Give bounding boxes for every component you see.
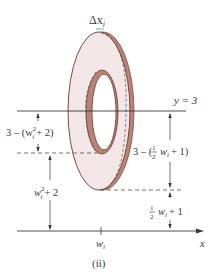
right-top-var: wi+ 1) bbox=[160, 146, 189, 159]
x-axis-arrow-icon bbox=[196, 229, 204, 234]
arrow-up-icon bbox=[168, 113, 171, 118]
left-top-dimension-label: 3 – (w2i+ 2) bbox=[6, 125, 54, 141]
arrow-down-icon bbox=[48, 225, 51, 230]
svg-text:2: 2 bbox=[150, 213, 154, 221]
arrow-down-icon bbox=[168, 183, 171, 188]
svg-text:1: 1 bbox=[150, 204, 154, 212]
svg-text:3 – (: 3 – ( bbox=[133, 146, 153, 158]
right-bottom-var: wi+ 1 bbox=[158, 206, 183, 219]
washer-diagram: Δxi y = 3 3 – (w2i+ 2) w2i+ 2 3 – ( 1 2 … bbox=[0, 0, 215, 278]
line-y-label: y = 3 bbox=[173, 94, 198, 106]
left-bottom-dimension-label: w2i+ 2 bbox=[34, 185, 58, 201]
washer bbox=[68, 29, 134, 190]
arrow-up-icon bbox=[48, 155, 51, 160]
washer-hole bbox=[92, 74, 116, 150]
figure-caption: (ii) bbox=[92, 257, 106, 270]
delta-x-label: Δxi bbox=[89, 13, 105, 29]
right-top-dimension-label: 3 – ( 1 2 wi+ 1) bbox=[133, 144, 189, 161]
svg-text:2: 2 bbox=[152, 153, 156, 161]
tick-label-wi: wi bbox=[96, 238, 105, 251]
right-bottom-dimension-label: 1 2 wi+ 1 bbox=[149, 204, 183, 221]
arrow-up-icon bbox=[168, 192, 171, 197]
x-axis-label: x bbox=[199, 238, 205, 249]
arrow-down-icon bbox=[36, 147, 39, 152]
arrow-down-icon bbox=[168, 224, 171, 229]
svg-text:1: 1 bbox=[152, 144, 156, 152]
arrow-up-icon bbox=[36, 113, 39, 118]
